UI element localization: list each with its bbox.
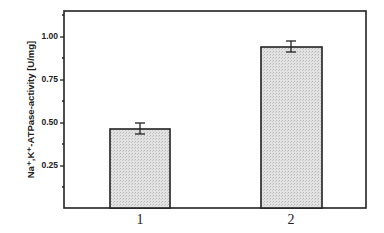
plot-area xyxy=(0,0,384,233)
bar-1 xyxy=(110,123,170,208)
x-tick-label: 2 xyxy=(281,212,301,228)
bar-2 xyxy=(261,41,322,208)
x-tick-label: 1 xyxy=(130,212,150,228)
